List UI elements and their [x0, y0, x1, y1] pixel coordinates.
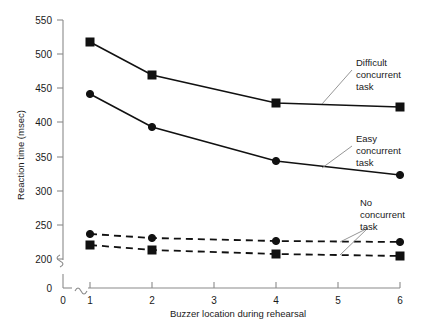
data-point-none-circle-6 [396, 238, 403, 245]
x-tick-label-4: 4 [273, 295, 279, 306]
data-point-difficult-6 [396, 103, 404, 111]
data-point-none-square-1 [86, 241, 94, 249]
annotation-none-line1: No [360, 197, 372, 208]
leader-line-difficult [322, 70, 352, 104]
x-tick-label-5: 5 [335, 295, 341, 306]
data-point-none-circle-1 [86, 230, 93, 237]
data-point-easy-1 [86, 90, 93, 97]
x-axis-title: Buzzer location during rehearsal [170, 308, 306, 319]
x-tick-label-1: 1 [87, 295, 93, 306]
data-point-none-square-4 [272, 250, 280, 258]
data-point-none-square-2 [148, 246, 156, 254]
x-tick-label-3: 3 [211, 295, 217, 306]
leader-line-easy [322, 146, 352, 168]
x-tick-label-6: 6 [397, 295, 403, 306]
x-axis-break-icon [75, 288, 87, 294]
data-point-easy-2 [148, 123, 155, 130]
y-tick-label-350: 350 [35, 152, 52, 163]
series-no-concurrent-task-circle [86, 230, 403, 245]
y-tick-label-300: 300 [35, 186, 52, 197]
data-point-none-circle-2 [148, 234, 155, 241]
data-point-none-square-6 [396, 252, 404, 260]
annotation-difficult-concurrent-task: Difficult concurrent task [322, 57, 401, 104]
data-point-none-circle-4 [272, 237, 279, 244]
y-axis-break-icon [57, 255, 63, 267]
data-point-difficult-4 [272, 99, 280, 107]
data-point-difficult-2 [148, 71, 156, 79]
data-point-easy-4 [272, 157, 279, 164]
annotation-difficult-line3: task [356, 81, 374, 92]
annotation-easy-concurrent-task: Easy concurrent task [322, 133, 401, 168]
annotation-difficult-line1: Difficult [356, 57, 387, 68]
annotation-easy-line2: concurrent [356, 145, 401, 156]
annotation-none-line3: task [360, 221, 378, 232]
series-line-none-square [90, 245, 400, 256]
y-tick-label-500: 500 [35, 49, 52, 60]
y-tick-label-550: 550 [35, 15, 52, 26]
y-axis: 550 500 450 400 350 300 250 200 0 [35, 15, 63, 294]
annotation-none-line2: concurrent [360, 209, 405, 220]
annotation-easy-line3: task [356, 157, 374, 168]
series-no-concurrent-task-square [86, 241, 404, 260]
data-point-difficult-1 [86, 38, 94, 46]
y-axis-title: Reaction time (msec) [15, 110, 26, 200]
y-tick-label-200: 200 [35, 254, 52, 265]
y-tick-label-0: 0 [46, 283, 52, 294]
x-tick-label-0: 0 [60, 295, 66, 306]
chart-container: 550 500 450 400 350 300 250 200 0 0 1 [0, 0, 427, 321]
x-tick-label-2: 2 [149, 295, 155, 306]
y-tick-label-450: 450 [35, 83, 52, 94]
y-tick-label-250: 250 [35, 220, 52, 231]
series-line-difficult [90, 42, 400, 107]
reaction-time-line-chart: 550 500 450 400 350 300 250 200 0 0 1 [0, 0, 427, 321]
annotation-no-concurrent-task: No concurrent task [340, 197, 405, 255]
x-axis: 0 1 2 3 4 5 6 [60, 282, 403, 306]
annotation-difficult-line2: concurrent [356, 69, 401, 80]
data-point-easy-6 [396, 171, 403, 178]
y-tick-label-400: 400 [35, 117, 52, 128]
annotation-easy-line1: Easy [356, 133, 377, 144]
